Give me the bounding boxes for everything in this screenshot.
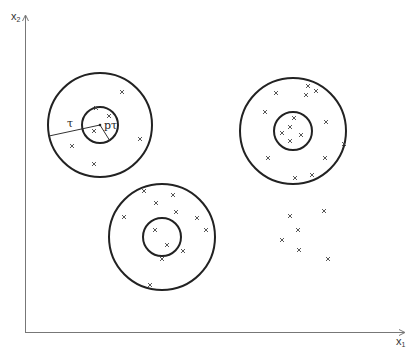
cross-marker-icon — [266, 156, 270, 160]
upper-right-outer-circle — [240, 78, 346, 184]
cross-marker-icon — [154, 201, 158, 205]
radius-lines — [49, 124, 110, 141]
cross-marker-icon — [324, 120, 328, 124]
cross-marker-icon — [204, 228, 208, 232]
cross-marker-icon — [299, 133, 303, 137]
cross-marker-icon — [165, 243, 169, 247]
cross-marker-icon — [304, 93, 308, 97]
cross-marker-icon — [174, 210, 178, 214]
cross-marker-icon — [288, 139, 292, 143]
cross-marker-icon — [153, 228, 157, 232]
center-dot — [99, 124, 102, 127]
diagram-canvas: x2 x1 τ pτ — [0, 0, 420, 351]
x-axis-label-subscript: 1 — [402, 341, 406, 348]
x-axis-label: x1 — [396, 336, 405, 348]
cross-marker-icon — [288, 214, 292, 218]
bottom-middle-inner-circle — [143, 218, 181, 256]
bottom-middle-outer-circle — [109, 184, 215, 290]
cross-marker-icon — [263, 110, 267, 114]
outer-radius-line — [49, 125, 100, 136]
cross-marker-icon — [274, 91, 278, 95]
cross-marker-icon — [92, 129, 96, 133]
scatter-plot — [0, 0, 420, 351]
outer-radius-label: τ — [67, 118, 73, 129]
y-axis-label-subscript: 2 — [17, 16, 21, 23]
cross-marker-icon — [107, 114, 111, 118]
cross-marker-icon — [296, 228, 300, 232]
cross-marker-icon — [280, 238, 284, 242]
cross-marker-icon — [122, 215, 126, 219]
cross-marker-icon — [138, 137, 142, 141]
cross-marker-icon — [292, 116, 296, 120]
cross-marker-icon — [326, 257, 330, 261]
cross-marker-icon — [306, 84, 310, 88]
inner-radius-label: pτ — [104, 120, 117, 131]
axes — [23, 15, 406, 336]
cross-marker-icon — [310, 173, 314, 177]
upper-right-inner-circle — [274, 112, 312, 150]
cross-marker-icon — [92, 162, 96, 166]
data-points — [70, 84, 346, 287]
cross-marker-icon — [280, 131, 284, 135]
cross-marker-icon — [323, 156, 327, 160]
cross-marker-icon — [160, 257, 164, 261]
y-axis-label: x2 — [11, 11, 20, 23]
cross-marker-icon — [297, 248, 301, 252]
cross-marker-icon — [120, 90, 124, 94]
cluster-circles — [48, 73, 346, 290]
cross-marker-icon — [322, 209, 326, 213]
cross-marker-icon — [293, 176, 297, 180]
cross-marker-icon — [195, 216, 199, 220]
cross-marker-icon — [148, 283, 152, 287]
cross-marker-icon — [70, 144, 74, 148]
cross-marker-icon — [314, 89, 318, 93]
cross-marker-icon — [288, 125, 292, 129]
cross-marker-icon — [142, 189, 146, 193]
cross-marker-icon — [171, 193, 175, 197]
cross-marker-icon — [181, 249, 185, 253]
